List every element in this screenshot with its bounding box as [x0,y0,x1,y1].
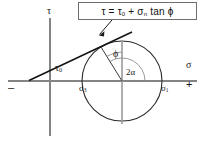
tau-axis-label: τ [47,6,51,16]
sigma-three-label: σ3 [79,84,87,93]
tau-zero-subscript: 0 [59,66,62,73]
callout-pointer-line [100,20,113,35]
diagram-canvas [0,0,216,144]
sigma-axis-label: σ [186,60,191,70]
formula-part-1: τ = τ [101,6,121,17]
formula-sub-sigma-n: n [144,11,148,17]
formula-callout-box: τ = τ0 + σn tan ϕ [78,2,197,20]
sigma-one-subscript: 1 [166,87,169,93]
two-alpha-angle-label: 2α [126,68,135,77]
sigma-three-subscript: 3 [84,87,87,93]
formula-part-3: tan ϕ [147,6,173,17]
mohr-circle-diagram: τ = τ0 + σn tan ϕ τ σ – + τ0 σ3 σ1 ϕ 2α [0,0,216,144]
formula-part-2: + σ [125,6,143,17]
negative-sign-label: – [8,82,14,93]
phi-angle-label: ϕ [113,49,118,59]
formula-sub-tau0: 0 [122,11,126,17]
tau-zero-label: τ0 [55,63,62,73]
formula-text: τ = τ0 + σn tan ϕ [101,6,173,17]
sigma-one-label: σ1 [161,84,169,93]
positive-sign-label: + [186,79,192,90]
